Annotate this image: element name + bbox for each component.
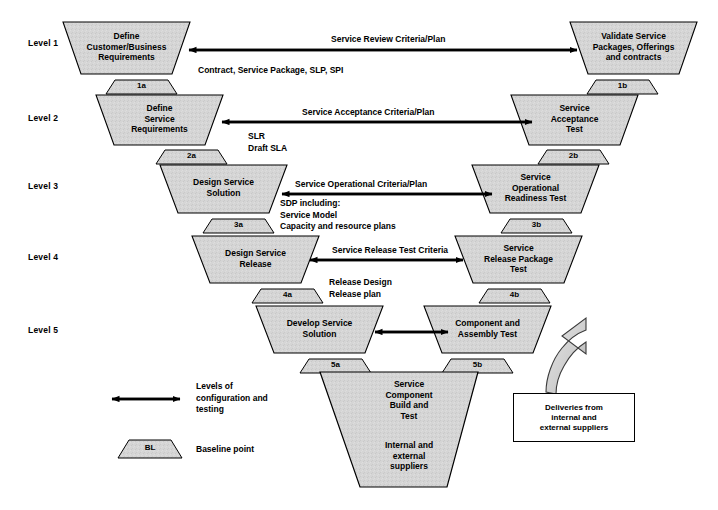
note-release-design: Release Design Release plan bbox=[329, 277, 392, 300]
arrow-label-level-4: Service Release Test Criteria bbox=[332, 245, 448, 256]
arrow-label-level-1: Service Review Criteria/Plan bbox=[331, 34, 445, 45]
legend-baseline-shape-label: BL bbox=[118, 443, 182, 452]
level-label-5: Level 5 bbox=[28, 325, 58, 335]
right-shape-r1[interactable] bbox=[570, 22, 697, 74]
baseline-1a-label: 1a bbox=[106, 81, 177, 90]
left-shape-l1[interactable] bbox=[63, 22, 190, 74]
service-component-build-shape[interactable] bbox=[320, 372, 478, 487]
level-label-2: Level 2 bbox=[28, 113, 58, 123]
baseline-4b-label: 4b bbox=[479, 290, 550, 299]
baseline-1b-label: 1b bbox=[587, 81, 658, 90]
baseline-4a-label: 4a bbox=[252, 290, 323, 299]
left-shape-l5[interactable] bbox=[256, 306, 383, 353]
baseline-5b-label: 5b bbox=[442, 360, 513, 369]
supplier-curved-arrow-icon bbox=[546, 318, 586, 394]
note-slr-draft-sla: SLR Draft SLA bbox=[248, 131, 287, 154]
diagram-canvas: Level 1 Level 2 Level 3 Level 4 Level 5 … bbox=[0, 0, 718, 510]
legend-levels-of-configuration-label: Levels of configuration and testing bbox=[196, 381, 268, 416]
arrow-label-level-2: Service Acceptance Criteria/Plan bbox=[302, 107, 434, 118]
right-shape-r4[interactable] bbox=[455, 236, 582, 283]
right-shape-r2[interactable] bbox=[511, 95, 638, 145]
note-contract-service-package: Contract, Service Package, SLP, SPI bbox=[198, 65, 343, 77]
right-shape-r3[interactable] bbox=[472, 165, 599, 213]
legend-baseline-point-label: Baseline point bbox=[196, 444, 254, 456]
right-shape-r5[interactable] bbox=[424, 306, 551, 353]
baseline-3a-label: 3a bbox=[203, 220, 274, 229]
left-shape-l3[interactable] bbox=[160, 165, 287, 213]
left-shape-l2[interactable] bbox=[96, 95, 223, 145]
level-label-3: Level 3 bbox=[28, 181, 58, 191]
baseline-3b-label: 3b bbox=[501, 220, 572, 229]
arrow-label-level-3: Service Operational Criteria/Plan bbox=[295, 179, 427, 190]
level-label-1: Level 1 bbox=[28, 38, 58, 48]
baseline-2b-label: 2b bbox=[538, 151, 609, 160]
baseline-2a-label: 2a bbox=[156, 151, 227, 160]
baseline-5a-label: 5a bbox=[300, 360, 371, 369]
delivery-box[interactable]: Deliveries from internal and external su… bbox=[513, 393, 635, 442]
left-shape-l4[interactable] bbox=[192, 236, 319, 283]
level-label-4: Level 4 bbox=[28, 252, 58, 262]
note-sdp-including: SDP including: Service Model Capacity an… bbox=[280, 198, 396, 233]
